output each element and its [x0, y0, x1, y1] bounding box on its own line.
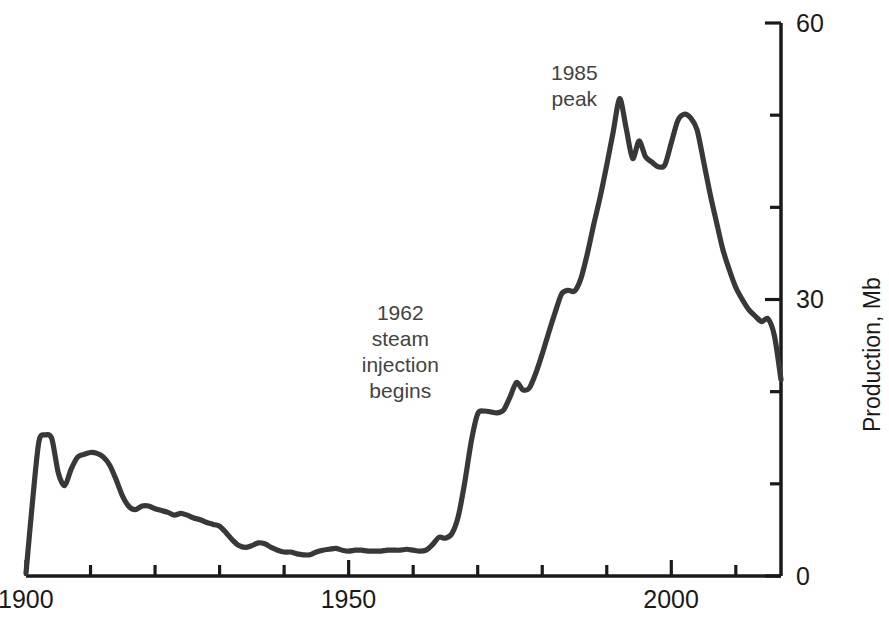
y-axis-title: Production, Mb	[859, 278, 886, 433]
chart-figure: 1900 1950 2000 0 30 60 Production, Mb 19…	[0, 0, 889, 625]
annotation-1962-line-3: begins	[362, 378, 439, 404]
annotation-1985-peak: 1985 peak	[551, 60, 598, 112]
annotation-1985-peak-line-1: peak	[551, 86, 598, 112]
y-axis-ticks	[765, 23, 781, 576]
annotation-1962-steam-injection: 1962 steam injection begins	[362, 300, 439, 404]
x-tick-label-2000: 2000	[643, 585, 699, 614]
annotation-1962-line-0: 1962	[362, 300, 439, 326]
annotation-1985-peak-line-0: 1985	[551, 60, 598, 86]
x-axis-ticks	[26, 560, 736, 576]
annotation-1962-line-2: injection	[362, 352, 439, 378]
y-tick-label-60: 60	[796, 9, 824, 38]
chart-plot-area	[0, 0, 889, 625]
annotation-1962-line-1: steam	[362, 326, 439, 352]
y-tick-label-30: 30	[796, 285, 824, 314]
y-tick-label-0: 0	[796, 562, 810, 591]
x-tick-label-1900: 1900	[0, 585, 54, 614]
x-tick-label-1950: 1950	[321, 585, 377, 614]
